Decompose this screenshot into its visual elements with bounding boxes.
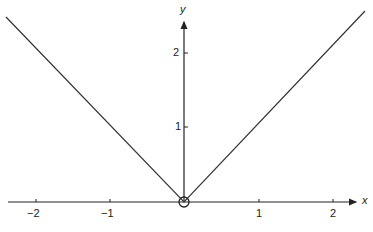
y-axis-label: y (180, 4, 186, 15)
x-tick-label: 1 (256, 208, 262, 219)
x-tick-label: 2 (330, 208, 336, 219)
y-tick-label: 1 (175, 121, 181, 132)
abs-x-line (6, 11, 365, 202)
x-tick-label: −1 (101, 208, 114, 219)
chart-canvas (0, 0, 373, 232)
x-axis-label: x (362, 195, 368, 206)
y-tick-label: 2 (173, 47, 179, 58)
x-tick-label: −2 (27, 208, 40, 219)
